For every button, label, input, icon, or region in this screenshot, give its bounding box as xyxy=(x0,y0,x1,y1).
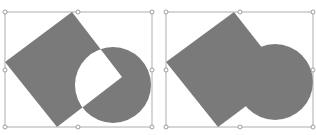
exclude-shape[interactable] xyxy=(5,12,151,127)
union-circle[interactable] xyxy=(237,44,313,120)
right-panel-union[interactable] xyxy=(164,10,315,129)
diagram-canvas xyxy=(0,0,316,135)
left-panel-exclude[interactable] xyxy=(3,10,154,129)
